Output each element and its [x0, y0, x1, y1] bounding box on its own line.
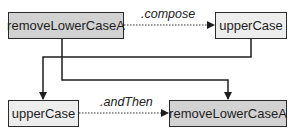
compose-label: .compose: [141, 7, 195, 21]
node-label: removeLowerCaseA: [7, 18, 125, 33]
node-label: upperCase: [12, 106, 76, 121]
node-label: removeLowerCaseA: [169, 106, 287, 121]
node-label: upperCase: [219, 18, 283, 33]
node-top-left: removeLowerCaseA: [8, 12, 124, 39]
uppercase-flow-line: [43, 38, 251, 99]
removelowercase-flow-line: [62, 38, 228, 99]
andthen-label: .andThen: [100, 95, 153, 109]
node-bottom-right: removeLowerCaseA: [169, 100, 287, 127]
node-top-right: upperCase: [215, 12, 287, 39]
node-bottom-left: upperCase: [8, 100, 79, 127]
